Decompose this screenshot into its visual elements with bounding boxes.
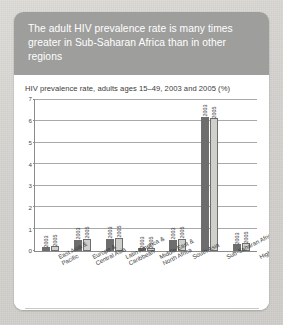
x-category-label-line: South Asia	[191, 254, 194, 260]
bar: 2005	[51, 246, 59, 250]
bar-year-label: 2003	[171, 228, 176, 240]
bar-group: 20032005	[162, 100, 194, 251]
y-tick-label: 1	[29, 227, 32, 233]
x-category-label: Europe &Central Asia	[91, 254, 98, 267]
bar-year-label: 2003	[234, 232, 239, 244]
bar-group: 20032005	[130, 100, 162, 251]
bar-year-label: 2003	[76, 228, 81, 240]
bar-group: 20032005	[225, 100, 257, 251]
chart-subtitle: HIV prevalence rate, adults ages 15–49, …	[25, 84, 259, 93]
x-category-label-line: High-income countries	[258, 254, 261, 260]
y-tick-label: 7	[29, 97, 32, 103]
bar-group: 20032005	[194, 100, 226, 251]
x-category-label-line: Sub-Saharan Africa	[225, 254, 228, 260]
x-axis-category-labels: East Asia &PacificEurope &Central AsiaLa…	[34, 252, 259, 304]
figure-title: The adult HIV prevalence rate is many ti…	[28, 22, 258, 65]
y-tick-label: 5	[29, 140, 32, 146]
bar-group: 20032005	[67, 100, 99, 251]
bar-year-label: 2005	[85, 227, 90, 239]
bar: 2003	[42, 247, 50, 250]
bar-year-label: 2003	[203, 105, 208, 117]
x-category-label-line: North Africa	[161, 260, 164, 266]
x-category-label-line: Central Asia	[94, 260, 97, 266]
bar-group: 20032005	[35, 100, 67, 251]
bars-layer: 2003200520032005200320052003200520032005…	[35, 100, 257, 251]
figure-header: The adult HIV prevalence rate is many ti…	[14, 12, 269, 75]
bar-year-label: 2005	[116, 226, 121, 238]
figure-card: The adult HIV prevalence rate is many ti…	[14, 12, 269, 310]
bar-year-label: 2005	[53, 234, 58, 246]
x-category-label: Middle East &North Africa	[158, 254, 165, 267]
x-category-label: East Asia &Pacific	[57, 254, 64, 267]
x-category-label-line: Pacific	[61, 260, 64, 266]
x-category-label: Sub-Saharan Africa	[225, 254, 228, 260]
plot-area: 2003200520032005200320052003200520032005…	[34, 100, 257, 252]
x-category-label-line: Caribbean	[128, 260, 131, 266]
bar-year-label: 2003	[107, 227, 112, 239]
source-row: Source : UNAIDS and WHO	[25, 308, 259, 310]
y-tick-label: 2	[29, 205, 32, 211]
plot-wrapper: 01234567 2003200520032005200320052003200…	[34, 100, 257, 252]
x-category-label-line: Europe &	[91, 254, 94, 260]
bar-year-label: 2003	[44, 235, 49, 247]
bar: 2005	[210, 118, 218, 251]
y-tick-label: 3	[29, 183, 32, 189]
x-category-label: Latin America &Caribbean	[124, 254, 131, 267]
x-category-label-line: Middle East &	[158, 254, 161, 260]
y-tick-label: 0	[29, 249, 32, 255]
bar-year-label: 2005	[180, 227, 185, 239]
bar: 2003	[201, 117, 209, 251]
figure-body: HIV prevalence rate, adults ages 15–49, …	[14, 75, 269, 310]
bar-year-label: 2005	[212, 106, 217, 118]
x-category-label: South Asia	[191, 254, 194, 260]
bar-group: 20032005	[98, 100, 130, 251]
x-category-label: High-income countries	[258, 254, 261, 260]
y-tick-label: 4	[29, 162, 32, 168]
y-tick-label: 6	[29, 118, 32, 124]
